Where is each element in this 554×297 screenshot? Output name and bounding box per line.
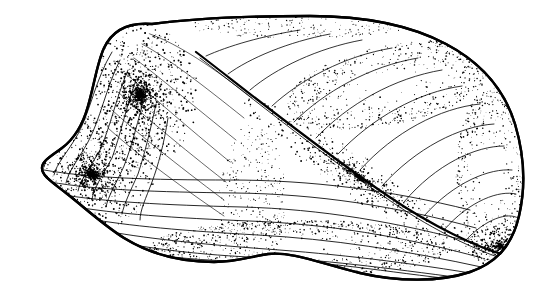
shell-outline (42, 16, 523, 280)
bivalve-shell-drawing: Black and white stippled line drawing of… (0, 0, 554, 297)
illustration-figure: Black and white stippled line drawing of… (0, 0, 554, 297)
